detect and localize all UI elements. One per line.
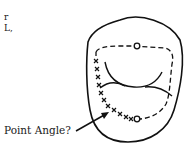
point-angle-label: Point Angle? [4,124,71,136]
cusp-curve-lower [100,83,172,97]
bottom-circle [134,116,140,122]
tooth-outline [87,17,183,142]
dashed-preparation-outline [96,46,173,119]
x-marks [94,59,133,121]
top-circle [134,43,140,49]
